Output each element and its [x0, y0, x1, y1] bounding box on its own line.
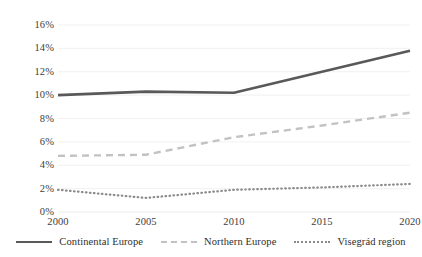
- y-axis-tick-label: 8%: [14, 114, 54, 125]
- y-axis-tick-label: 4%: [14, 160, 54, 171]
- x-axis-tick-label: 2020: [380, 216, 422, 228]
- series-lines: [58, 51, 410, 198]
- legend-item[interactable]: Visegrád region: [294, 236, 405, 248]
- series-line: [58, 184, 410, 198]
- legend-swatch-dotted-icon: [294, 237, 330, 247]
- legend-swatch-solid-icon: [16, 237, 52, 247]
- y-axis-tick-label: 2%: [14, 184, 54, 195]
- line-chart: 16%14%12%10%8%6%4%2%0% 20002005201020152…: [0, 0, 422, 257]
- x-axis-tick-label: 2015: [292, 216, 352, 228]
- y-axis-tick-label: 12%: [14, 67, 54, 78]
- y-axis-tick-label: 10%: [14, 90, 54, 101]
- legend-label: Northern Europe: [204, 236, 276, 248]
- legend-swatch-dashed-icon: [161, 237, 197, 247]
- x-axis-tick-label: 2010: [204, 216, 264, 228]
- legend-label: Visegrád region: [337, 236, 405, 248]
- x-axis-tick-label: 2000: [28, 216, 88, 228]
- legend-item[interactable]: Northern Europe: [161, 236, 276, 248]
- y-axis-tick-label: 14%: [14, 43, 54, 54]
- y-axis-tick-label: 6%: [14, 137, 54, 148]
- chart-legend: Continental EuropeNorthern EuropeVisegrá…: [0, 231, 422, 253]
- legend-label: Continental Europe: [59, 236, 143, 248]
- x-axis-tick-label: 2005: [116, 216, 176, 228]
- legend-item[interactable]: Continental Europe: [16, 236, 143, 248]
- y-axis-tick-label: 16%: [14, 20, 54, 31]
- series-line: [58, 51, 410, 95]
- series-line: [58, 113, 410, 156]
- gridlines: [58, 25, 410, 212]
